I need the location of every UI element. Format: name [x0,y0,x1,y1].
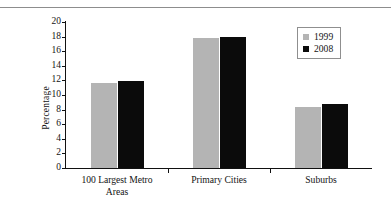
x-category-label-1: Primary Cities [168,174,270,186]
y-axis-tick-label: 10 [52,90,62,100]
y-axis-tick-label: 12 [52,75,62,85]
y-axis-tick [62,153,66,154]
bar-2008-1 [220,37,246,168]
y-axis-tick-label: 18 [52,32,62,41]
x-axis-tick [270,168,271,173]
y-axis-tick [62,51,66,52]
y-axis-tick-label: 8 [56,105,61,115]
bar-2008-0 [118,81,144,168]
black-square-swatch [303,46,309,52]
y-axis-tick-label: 20 [52,17,62,27]
y-axis-tick [62,95,66,96]
y-axis-tick-label: 6 [56,119,61,129]
legend-label-2008: 2008 [314,44,333,54]
gray-square-swatch [303,34,309,40]
x-axis-tick [168,168,169,173]
y-axis-tick [62,139,66,140]
y-axis-title: Percentage [41,86,51,130]
legend-item-2008: 2008 [303,43,333,55]
chart-legend: 1999 2008 [297,27,341,59]
legend-item-1999: 1999 [303,31,333,43]
x-category-label-2: Suburbs [270,174,372,186]
y-axis-tick [62,80,66,81]
bar-1999-1 [193,38,219,168]
x-category-label-0: 100 Largest Metro Areas [66,174,168,197]
y-axis-tick-label: 0 [56,163,61,173]
top-divider-rule [0,7,391,8]
y-axis-tick-label: 16 [52,46,62,56]
y-axis-tick [62,22,66,23]
y-axis-tick [62,124,66,125]
legend-label-1999: 1999 [314,32,333,42]
y-axis-tick-label: 14 [52,61,62,70]
y-axis-tick [62,110,66,111]
y-axis-tick [62,37,66,38]
y-axis-tick [62,66,66,67]
bar-1999-2 [295,107,321,168]
bar-1999-0 [91,83,117,168]
y-axis-tick-label: 2 [56,148,61,158]
bar-2008-2 [322,104,348,168]
bar-chart-figure: Percentage 02468101214161820 100 Largest… [0,0,391,215]
y-axis-tick [62,168,66,169]
y-axis-tick-label: 4 [56,134,61,144]
